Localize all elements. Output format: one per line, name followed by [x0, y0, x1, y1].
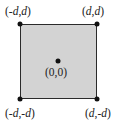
label-top-right: (d,d): [82, 6, 104, 18]
corner-dot-top-right: [95, 22, 100, 27]
corner-dot-bottom-right: [95, 97, 100, 102]
corner-dot-bottom-left: [18, 97, 23, 102]
label-top-left: (-d,d): [5, 6, 31, 18]
label-bottom-right: (d,-d): [85, 108, 111, 120]
corner-dot-top-left: [18, 22, 23, 27]
center-dot: [56, 59, 61, 64]
label-center: (0,0): [45, 67, 67, 79]
label-bottom-left: (-d,-d): [5, 108, 35, 120]
